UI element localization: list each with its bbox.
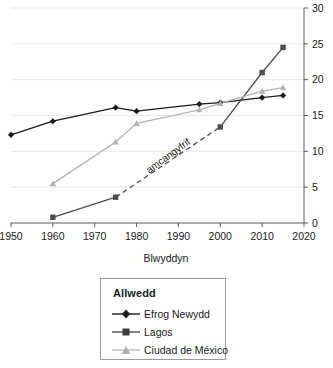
axis-ticks — [11, 8, 308, 227]
series-segment — [53, 142, 116, 184]
data-point-square-icon — [218, 124, 223, 129]
series-segment — [137, 104, 200, 111]
chart-legend: Allwedd Efrog Newydd Lagos — [100, 278, 226, 360]
chart-container: 19501960197019801990200020102020 0510152… — [0, 0, 333, 368]
series-segment — [262, 88, 283, 92]
data-point-square-icon — [280, 45, 285, 50]
y-tick-label: 25 — [312, 38, 324, 50]
y-tick-label: 15 — [312, 109, 324, 121]
data-point-triangle-icon — [50, 180, 56, 186]
y-tick-label: 20 — [312, 73, 324, 85]
y-tick-label: 30 — [312, 2, 324, 14]
data-point-diamond-icon — [113, 105, 119, 111]
x-tick-label: 1980 — [125, 230, 149, 242]
legend-swatch-diamond-icon — [111, 307, 141, 321]
legend-item-efrog-newydd: Efrog Newydd — [111, 306, 210, 322]
data-point-diamond-icon — [50, 118, 56, 124]
legend-swatch-triangle-icon — [111, 343, 141, 357]
legend-label: Efrog Newydd — [144, 308, 210, 320]
x-axis-title: Blwyddyn — [144, 252, 189, 264]
series-segment — [262, 95, 283, 97]
series-segment — [53, 197, 116, 217]
series-segment — [11, 121, 53, 135]
legend-item-lagos: Lagos — [111, 324, 173, 340]
data-point-diamond-icon — [196, 101, 202, 107]
legend-label: Lagos — [144, 326, 173, 338]
x-tick-label: 2000 — [209, 230, 233, 242]
x-tick-labels: 19501960197019801990200020102020 — [0, 230, 316, 242]
series-segment — [53, 108, 116, 122]
x-tick-label: 1960 — [41, 230, 65, 242]
data-point-square-icon — [259, 70, 264, 75]
legend-swatch-square-icon — [111, 325, 141, 339]
series-segment — [137, 110, 200, 124]
x-tick-label: 2020 — [292, 230, 316, 242]
legend-label: Ciudad de México — [144, 344, 228, 356]
chart-annotation-label: amcangyfrif — [144, 136, 192, 175]
y-tick-labels: 051015202530 — [312, 2, 324, 229]
y-tick-label: 0 — [312, 217, 318, 229]
legend-item-ciudad-de-mexico: Ciudad de México — [111, 342, 228, 358]
x-tick-label: 1970 — [83, 230, 107, 242]
data-point-diamond-icon — [8, 132, 14, 138]
series-segment — [116, 123, 137, 142]
legend-title: Allwedd — [113, 287, 156, 299]
x-tick-label: 2010 — [250, 230, 274, 242]
data-point-square-icon — [50, 215, 55, 220]
series-segment — [220, 73, 262, 127]
series-segment — [116, 108, 137, 112]
series-segment — [262, 47, 283, 72]
series-segment — [220, 91, 262, 103]
data-point-diamond-icon — [280, 92, 286, 98]
data-point-triangle-icon — [280, 84, 286, 90]
chart-annotations: amcangyfrif — [144, 136, 192, 175]
x-tick-label: 1950 — [0, 230, 23, 242]
data-point-diamond-icon — [133, 108, 139, 114]
y-tick-label: 5 — [312, 181, 318, 193]
series-lines — [11, 47, 283, 217]
y-tick-label: 10 — [312, 145, 324, 157]
data-point-diamond-icon — [259, 94, 265, 100]
series-markers — [8, 45, 286, 220]
x-tick-label: 1990 — [167, 230, 191, 242]
data-point-square-icon — [113, 195, 118, 200]
